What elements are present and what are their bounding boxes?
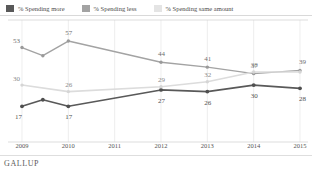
chart-legend: % Spending more % Spending less % Spendi… [0, 0, 312, 16]
data-point-less [159, 61, 162, 64]
x-tick-2011: 2011 [108, 142, 121, 150]
data-point-same [159, 85, 162, 88]
legend-label: % Spending more [18, 5, 65, 12]
legend-item-spending-less: % Spending less [82, 5, 137, 12]
data-label: 53 [13, 37, 21, 45]
legend-item-spending-more: % Spending more [6, 5, 65, 12]
legend-swatch-icon [6, 5, 14, 12]
data-label: 30 [13, 75, 21, 83]
data-point-less [20, 46, 23, 49]
footer-divider [0, 155, 312, 156]
chart-figure: % Spending more % Spending less % Spendi… [0, 0, 312, 176]
data-label: 17 [65, 113, 73, 121]
legend-item-spending-same: % Spending same amount [154, 5, 234, 12]
legend-swatch-icon [154, 5, 162, 12]
x-tick-2012: 2012 [155, 142, 168, 150]
data-point-more [41, 98, 45, 102]
data-point-more [159, 88, 163, 92]
x-tick-2009: 2009 [16, 142, 29, 150]
data-label: 26 [204, 99, 212, 107]
x-tick-2013: 2013 [201, 142, 214, 150]
data-label: 57 [65, 29, 73, 37]
data-label: 29 [158, 76, 166, 84]
data-point-more [252, 83, 256, 87]
data-point-less [206, 65, 209, 68]
data-labels: 1717272630285357444137393026293238 [13, 29, 307, 121]
data-point-same [206, 80, 209, 83]
data-point-same [20, 83, 23, 86]
data-label: 44 [158, 50, 166, 58]
gallup-brand: GALLUP [4, 159, 39, 168]
data-label: 30 [251, 92, 259, 100]
plot-area: 1717272630285357444137393026293238 [0, 16, 312, 144]
data-label: 26 [65, 81, 73, 89]
data-point-more [298, 86, 302, 90]
data-label: 41 [204, 55, 212, 63]
line-chart-svg: 1717272630285357444137393026293238 [0, 16, 312, 144]
x-tick-2015: 2015 [294, 142, 307, 150]
x-tick-2010: 2010 [62, 142, 75, 150]
data-label: 38 [251, 61, 259, 69]
data-label: 17 [15, 113, 23, 121]
data-point-less [67, 39, 70, 42]
data-label: 28 [299, 95, 307, 103]
data-point-more [66, 104, 70, 108]
data-point-same [67, 90, 70, 93]
legend-label: % Spending less [94, 5, 137, 12]
data-point-same [298, 70, 301, 73]
data-label: 39 [299, 58, 307, 66]
x-tick-2014: 2014 [247, 142, 260, 150]
data-point-more [205, 90, 209, 94]
data-point-same [252, 70, 255, 73]
data-label: 27 [158, 97, 166, 105]
legend-label: % Spending same amount [166, 5, 234, 12]
data-point-less [41, 54, 44, 57]
data-point-more [20, 104, 24, 108]
legend-swatch-icon [82, 5, 90, 12]
data-label: 32 [204, 71, 212, 79]
x-axis: 2009201020112012201320142015 [0, 142, 312, 154]
